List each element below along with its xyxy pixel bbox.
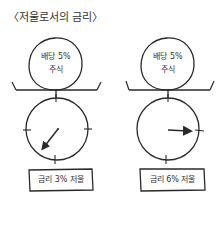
right-stock-label: 배당 5% 주식 [146,50,190,76]
right-platform [126,81,214,98]
right-scale-label: 금리 6% 저울 [141,171,204,189]
left-needle-icon [44,129,58,147]
left-dial [23,94,92,164]
right-stock-dividend: 배당 5% [146,50,190,63]
left-stock-type: 주식 [34,63,78,76]
right-dial [137,94,204,164]
right-needle-icon [168,130,188,131]
left-scale-label: 금리 3% 저울 [30,171,92,189]
left-stock-label: 배당 5% 주식 [34,50,78,76]
left-stock-dividend: 배당 5% [34,50,78,63]
right-stock-type: 주식 [146,63,190,76]
